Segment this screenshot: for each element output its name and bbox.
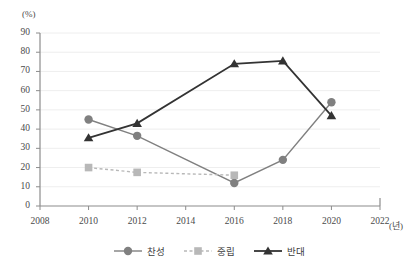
series-line (89, 61, 332, 138)
series-line (89, 168, 235, 176)
chart-legend: 찬성중립반대 (0, 244, 417, 258)
data-point-marker (230, 179, 238, 187)
series-찬성 (84, 98, 335, 187)
data-point-marker (230, 171, 238, 179)
data-point-marker (327, 98, 335, 106)
data-point-marker (133, 169, 141, 177)
data-point-marker (84, 115, 92, 123)
legend-marker-triangle-icon (253, 244, 283, 258)
series-중립 (85, 164, 238, 179)
legend-marker-square-icon (183, 244, 213, 258)
data-point-marker (194, 247, 202, 255)
legend-item-중립[interactable]: 중립 (183, 244, 235, 258)
data-point-marker (85, 164, 93, 172)
data-point-marker (123, 247, 131, 255)
data-point-marker (132, 119, 142, 127)
series-반대 (84, 56, 336, 141)
gridlines (40, 33, 380, 187)
legend-item-반대[interactable]: 반대 (253, 244, 305, 258)
legend-item-찬성[interactable]: 찬성 (113, 244, 165, 258)
legend-label: 반대 (287, 244, 305, 258)
legend-marker-circle-icon (113, 244, 143, 258)
line-chart: (%) (년) 0102030405060708090 200820102012… (0, 0, 417, 269)
data-point-marker (133, 132, 141, 140)
data-point-marker (279, 156, 287, 164)
series-line (89, 102, 332, 183)
legend-label: 중립 (217, 244, 235, 258)
legend-label: 찬성 (147, 244, 165, 258)
plot-area (0, 0, 417, 269)
